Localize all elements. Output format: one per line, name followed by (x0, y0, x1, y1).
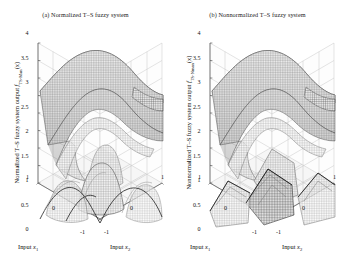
y-tick-b-7: 3.5 (193, 55, 201, 61)
x1-tick-b-m1: -1 (252, 229, 257, 235)
x1-axis-label-b: Input x1 (190, 243, 210, 252)
panel-title-b: (b) Nonnormalized T–S fuzzy system (172, 11, 343, 18)
x1-tick-a-1: 1 (26, 174, 29, 180)
x2-axis-label-b: Input x2 (282, 243, 302, 252)
x2-tick-a-m1: -1 (104, 229, 109, 235)
x2-tick-a-1: 1 (161, 174, 164, 180)
subplot-panel-b: (b) Nonnormalized T–S fuzzy system Nonno… (172, 0, 343, 266)
y-tick-a-3: 1.5 (21, 153, 29, 159)
y-tick-b-5: 2.5 (193, 104, 201, 110)
y-tick-b-0: 0 (198, 226, 201, 232)
x2-tick-b-1: 1 (333, 174, 336, 180)
y-tick-b-3: 1.5 (193, 153, 201, 159)
x1-tick-a-0: 0 (52, 205, 55, 211)
x2-axis-label-a: Input x2 (110, 243, 130, 252)
y-tick-a-0: 0 (26, 226, 29, 232)
x1-tick-a-m1: -1 (80, 229, 85, 235)
panel-title-a: (a) Normalized T–S fuzzy system (0, 11, 171, 18)
y-tick-a-6: 3 (26, 79, 29, 85)
surface-canvas-a (30, 33, 170, 229)
x1-tick-b-0: 0 (224, 205, 227, 211)
plot-area-b: 0 0.5 1 1.5 2 2.5 3 3.5 4 1 0 -1 -1 0 1 (202, 33, 342, 229)
x2-tick-b-m1: -1 (276, 229, 281, 235)
surface-canvas-b (202, 33, 342, 229)
x2-tick-a-0: 0 (130, 205, 133, 211)
x1-axis-label-a: Input x1 (18, 243, 38, 252)
figure-container: (a) Normalized T–S fuzzy system Normaliz… (0, 0, 343, 266)
y-tick-a-7: 3.5 (21, 55, 29, 61)
x1-tick-b-1: 1 (198, 174, 201, 180)
y-tick-b-1: 0.5 (193, 202, 201, 208)
y-tick-a-1: 0.5 (21, 202, 29, 208)
y-tick-a-5: 2.5 (21, 104, 29, 110)
y-tick-b-4: 2 (198, 128, 201, 134)
y-tick-a-4: 2 (26, 128, 29, 134)
plot-area-a: 0 0.5 1 1.5 2 2.5 3 3.5 4 1 0 -1 -1 0 1 (30, 33, 170, 229)
subplot-panel-a: (a) Normalized T–S fuzzy system Normaliz… (0, 0, 171, 266)
y-tick-b-8: 4 (198, 30, 201, 36)
y-tick-a-8: 4 (26, 30, 29, 36)
x2-tick-b-0: 0 (302, 205, 305, 211)
y-tick-b-6: 3 (198, 79, 201, 85)
